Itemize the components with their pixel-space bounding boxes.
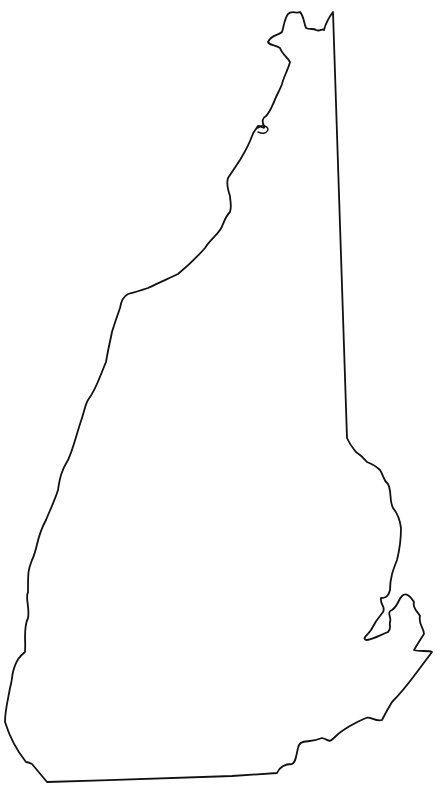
- state-border-outline: [5, 12, 432, 782]
- state-outline-map: [0, 0, 444, 791]
